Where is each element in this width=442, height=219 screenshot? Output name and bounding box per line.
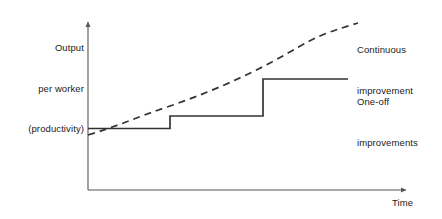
x-axis-label: Time [392,196,413,210]
y-axis-label: Output per worker (productivity) [0,14,84,163]
legend-continuous-line-1: Continuous [357,43,442,57]
y-axis-label-line-2: per worker [0,82,84,96]
legend-oneoff-line-1: One-off [357,95,442,109]
legend-one-off-improvements: One-off improvements [357,68,442,176]
y-axis-label-line-1: Output [0,41,84,55]
productivity-chart-figure: Output per worker (productivity) Time Co… [0,0,442,219]
legend-oneoff-line-2: improvements [357,136,442,150]
y-axis-label-line-3: (productivity) [0,122,84,136]
